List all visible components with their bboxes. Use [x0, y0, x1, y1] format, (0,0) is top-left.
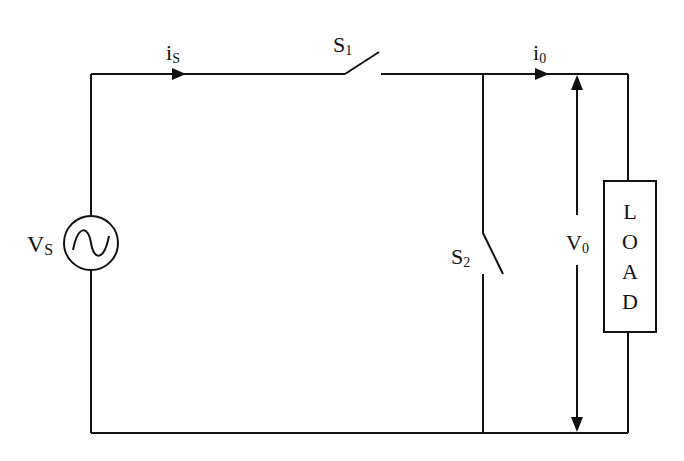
label-source-voltage: VS: [27, 232, 53, 256]
label-switch-s1: S1: [333, 34, 352, 56]
label-output-current: i0: [533, 42, 546, 64]
load-letter-o: O: [604, 229, 656, 255]
load-letter-d: D: [604, 289, 656, 315]
label-output-voltage: V0: [566, 232, 589, 254]
load-letter-a: A: [604, 259, 656, 285]
voltage-arrowhead-down-icon: [571, 417, 583, 432]
current-arrow-i0-icon: [535, 68, 549, 80]
label-source-current: iS: [166, 42, 180, 64]
current-arrow-is-icon: [172, 68, 186, 80]
load-letter-l: L: [604, 199, 656, 225]
switch-s2-blade: [483, 233, 503, 274]
sine-wave-icon: [73, 230, 109, 255]
voltage-arrowhead-up-icon: [571, 75, 583, 90]
label-switch-s2: S2: [451, 246, 470, 268]
